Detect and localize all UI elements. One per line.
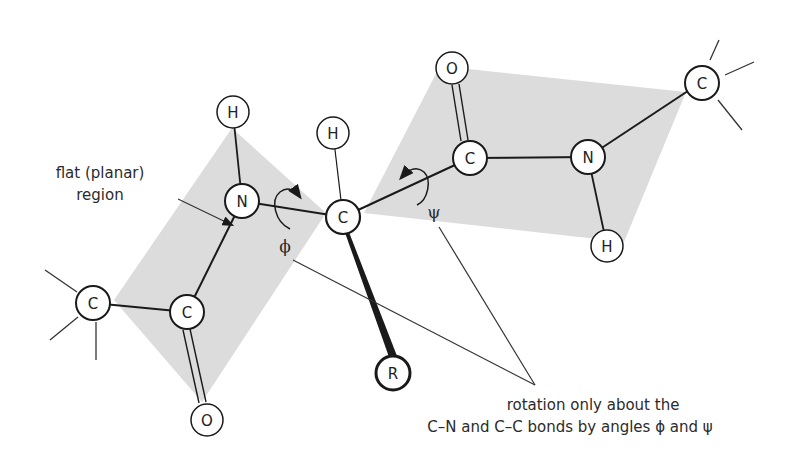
atom-n-right: N	[571, 140, 605, 174]
atom-c-left-carbonyl: C	[170, 295, 204, 329]
svg-text:R: R	[388, 365, 398, 383]
svg-text:H: H	[327, 125, 338, 143]
svg-text:N: N	[236, 193, 247, 211]
atom-n-left: N	[225, 184, 259, 218]
svg-text:O: O	[201, 412, 213, 430]
atom-c-left-methyl: C	[76, 286, 110, 320]
svg-text:C: C	[338, 209, 348, 227]
rotation-label-line2: C–N and C–C bonds by angles ϕ and ψ	[427, 418, 712, 436]
svg-text:O: O	[446, 60, 458, 78]
atom-c-right-carbonyl: C	[453, 141, 487, 175]
psi-pointer-line	[439, 227, 535, 385]
left-planar-region	[114, 128, 326, 402]
atom-h-alpha: H	[317, 117, 349, 149]
svg-text:H: H	[601, 238, 612, 256]
svg-text:N: N	[582, 149, 593, 167]
psi-label: ψ	[427, 202, 440, 222]
right-planar-region	[364, 66, 686, 242]
atom-o-left: O	[191, 404, 223, 436]
atom-o-right: O	[436, 52, 468, 84]
planar-region-label-line2: region	[76, 186, 123, 204]
svg-text:C: C	[697, 75, 707, 93]
atom-h-left: H	[217, 96, 249, 128]
rotation-label-line1: rotation only about the	[507, 396, 680, 414]
bond-calpha-r-wedge	[343, 227, 397, 357]
svg-text:H: H	[227, 104, 238, 122]
phi-pointer-line	[293, 260, 535, 385]
planar-region-label-line1: flat (planar)	[56, 164, 145, 182]
phi-label: ϕ	[279, 236, 291, 256]
atom-c-alpha: C	[326, 200, 360, 234]
atom-c-right-alpha: C	[685, 66, 719, 100]
svg-text:C: C	[182, 304, 192, 322]
peptide-torsion-diagram: C C O N H C H R	[0, 0, 809, 468]
atom-h-right: H	[591, 230, 623, 262]
atom-r-sidechain: R	[376, 356, 410, 390]
svg-text:C: C	[88, 295, 98, 313]
svg-text:C: C	[465, 150, 475, 168]
